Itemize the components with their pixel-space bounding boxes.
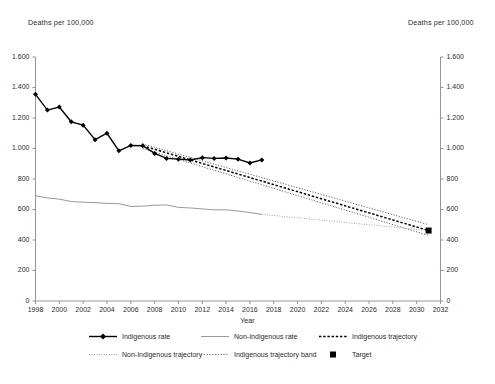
y-tick-label-left: 200 — [0, 266, 30, 273]
mortality-rate-chart: Deaths per 100,000 Deaths per 100,000 02… — [0, 0, 495, 384]
y-tick-label-right: 1.400 — [447, 83, 465, 90]
y-tick-label-left: 1.000 — [0, 144, 30, 151]
chart-legend: Indigenous rateNon-Indigenous rateIndige… — [0, 332, 495, 378]
data-point-indigenous-rate — [212, 156, 217, 161]
legend-label: Indigenous trajectory — [352, 333, 417, 340]
series-indigenous-trajectory — [143, 146, 429, 231]
y-tick-label-right: 1.200 — [447, 114, 465, 121]
legend-label: Indigenous rate — [122, 333, 170, 340]
series-indigenous-trajectory-band-upper — [143, 144, 429, 225]
legend-label: Indigenous trajectory band — [234, 351, 317, 358]
legend-swatch-icon — [88, 332, 118, 341]
y-tick-label-left: 1.400 — [0, 83, 30, 90]
legend-swatch-icon — [88, 350, 118, 359]
y-tick-label-right: 400 — [447, 236, 459, 243]
series-indigenous-rate — [36, 94, 262, 163]
legend-item: Non-Indigenous rate — [200, 332, 297, 341]
legend-item: Indigenous trajectory band — [200, 350, 317, 359]
data-point-indigenous-rate — [164, 156, 169, 161]
x-tick-label: 2032 — [424, 306, 458, 313]
y-tick-label-left: 0 — [0, 297, 30, 304]
y-tick-label-left: 400 — [0, 236, 30, 243]
data-point-indigenous-rate — [128, 143, 133, 148]
y-tick-label-left: 800 — [0, 175, 30, 182]
legend-swatch-icon — [318, 332, 348, 341]
legend-swatch-icon — [200, 332, 230, 341]
data-point-indigenous-rate — [236, 157, 241, 162]
data-point-indigenous-rate — [247, 160, 252, 165]
legend-item: Target — [318, 350, 371, 359]
y-tick-label-right: 600 — [447, 205, 459, 212]
legend-swatch-icon — [318, 350, 348, 359]
target-marker — [426, 228, 432, 234]
legend-item: Indigenous trajectory — [318, 332, 417, 341]
x-axis-title: Year — [0, 316, 495, 325]
series-indigenous-trajectory-band-lower — [143, 149, 429, 236]
data-point-indigenous-rate — [200, 155, 205, 160]
series-non-indigenous-rate — [36, 196, 262, 215]
legend-item: Indigenous rate — [88, 332, 170, 341]
y-tick-label-right: 800 — [447, 175, 459, 182]
legend-item: Non-Indigenous trajectory — [88, 350, 202, 359]
y-tick-label-left: 1.200 — [0, 114, 30, 121]
y-tick-label-right: 1.000 — [447, 144, 465, 151]
y-tick-label-left: 1.600 — [0, 53, 30, 60]
y-tick-label-left: 600 — [0, 205, 30, 212]
plot-area — [0, 0, 495, 384]
data-point-indigenous-rate — [259, 157, 264, 162]
y-tick-label-right: 200 — [447, 266, 459, 273]
legend-swatch-icon — [200, 350, 230, 359]
legend-label: Target — [352, 351, 371, 358]
legend-label: Non-Indigenous trajectory — [122, 351, 202, 358]
legend-label: Non-Indigenous rate — [234, 333, 297, 340]
y-tick-label-right: 1.600 — [447, 53, 465, 60]
y-tick-label-right: 0 — [447, 297, 451, 304]
data-point-indigenous-rate — [224, 155, 229, 160]
